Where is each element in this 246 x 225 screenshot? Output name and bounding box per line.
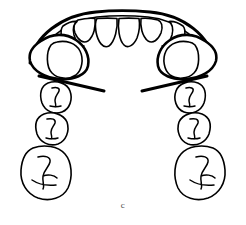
left-quadrant bbox=[21, 35, 89, 200]
tooth-central-incisor-left bbox=[95, 18, 117, 47]
tooth-first-molar-left bbox=[21, 146, 71, 200]
dental-arch-figure: c bbox=[0, 0, 246, 225]
right-quadrant bbox=[158, 35, 226, 200]
tooth-first-premolar-upper-right bbox=[164, 41, 199, 78]
tooth-first-molar-right bbox=[175, 146, 225, 200]
arch-diagram-svg bbox=[0, 0, 246, 225]
tooth-first-premolar-upper-left bbox=[47, 41, 82, 78]
panel-label: c bbox=[0, 200, 246, 211]
tooth-central-incisor-right bbox=[118, 18, 139, 46]
tooth-lateral-incisor-right bbox=[141, 18, 162, 42]
